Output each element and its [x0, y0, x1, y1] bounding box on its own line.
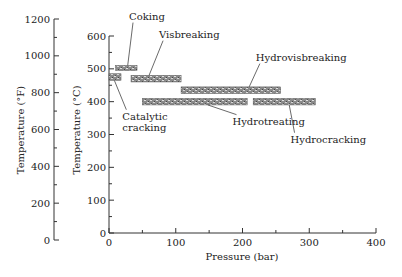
fahrenheit-tick-label: 1000 [25, 50, 50, 61]
process-bar [253, 98, 315, 105]
process-bar [116, 66, 137, 71]
pressure-tick-label: 300 [300, 237, 319, 248]
leader-line [149, 41, 163, 76]
fahrenheit-axis: 020040060080010001200 [25, 14, 59, 246]
celsius-tick-label: 500 [87, 63, 106, 74]
celsius-tick-label: 400 [87, 96, 106, 107]
leader-line [208, 105, 237, 115]
pressure-tick-label: 0 [106, 237, 112, 248]
fahrenheit-tick-label: 800 [31, 87, 50, 98]
process-label: Catalyticcracking [122, 111, 168, 133]
celsius-axis: 0100200300400500600 [87, 31, 114, 239]
process-label: Visbreaking [158, 29, 220, 40]
process-bar [109, 74, 121, 81]
process-label: Hydrovisbreaking [256, 52, 347, 63]
process-bar [181, 87, 280, 94]
process-label: Hydrocracking [291, 134, 367, 145]
celsius-axis-title: Temperature (°C) [71, 85, 82, 174]
fahrenheit-tick-label: 600 [31, 124, 50, 135]
celsius-tick-label: 300 [87, 129, 106, 140]
celsius-tick-label: 100 [87, 195, 106, 206]
fahrenheit-tick-label: 400 [31, 161, 50, 172]
pressure-tick-label: 200 [233, 237, 252, 248]
process-label: Coking [129, 11, 165, 22]
refining-process-chart: 020040060080010001200 010020030040050060… [0, 0, 402, 277]
process-label: Hydrotreating [232, 116, 305, 127]
fahrenheit-tick-label: 0 [44, 235, 50, 246]
leader-line [114, 80, 126, 109]
leader-line [128, 23, 133, 66]
pressure-axis-title: Pressure (bar) [206, 251, 279, 262]
fahrenheit-axis-title: Temperature (°F) [15, 86, 26, 175]
process-bar [131, 75, 181, 82]
process-bar [142, 98, 247, 105]
fahrenheit-tick-label: 1200 [25, 14, 50, 25]
pressure-tick-label: 400 [366, 237, 385, 248]
process-bars [109, 66, 315, 105]
celsius-tick-label: 200 [87, 162, 106, 173]
pressure-tick-label: 100 [166, 237, 185, 248]
pressure-axis: 0100200300400 [106, 228, 386, 248]
celsius-tick-label: 600 [87, 31, 106, 42]
leader-line [249, 64, 260, 87]
fahrenheit-tick-label: 200 [31, 198, 50, 209]
